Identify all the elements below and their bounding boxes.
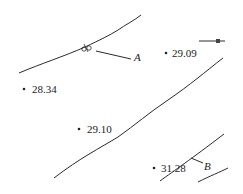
marker-b-label: B <box>204 161 211 172</box>
elevation-label: 28.34 <box>32 84 57 95</box>
benchmark-marker-icon <box>216 39 220 43</box>
elevation-label: 29.09 <box>172 48 197 59</box>
leader-line-a <box>96 51 131 59</box>
contour-line-2 <box>54 58 223 178</box>
elevation-point-icon <box>23 88 26 91</box>
elevation-point-icon <box>165 52 168 55</box>
contour-line-1 <box>19 15 141 73</box>
leader-line-b <box>191 158 203 163</box>
map-canvas: A 29.09 28.34 29.10 B 31.28 <box>0 0 243 194</box>
elevation-point-icon <box>153 167 156 170</box>
marker-a-label: A <box>134 52 141 63</box>
elevation-label: 31.28 <box>161 163 186 174</box>
contour-line-4 <box>198 168 228 182</box>
elevation-point-icon <box>78 128 81 131</box>
elevation-label: 29.10 <box>87 124 112 135</box>
